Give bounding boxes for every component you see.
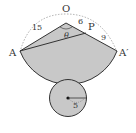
label-A: A [8,47,17,58]
label-theta: θ [64,31,69,40]
label-O: O [62,3,70,14]
label-A-prime: A′ [118,47,129,58]
label-6: 6 [78,17,83,26]
label-9: 9 [101,33,106,42]
label-15: 15 [32,23,42,32]
label-P: P [88,21,95,32]
label-5: 5 [73,101,78,110]
cone-net-diagram: O A A′ P 15 6 9 θ 5 [0,0,136,133]
